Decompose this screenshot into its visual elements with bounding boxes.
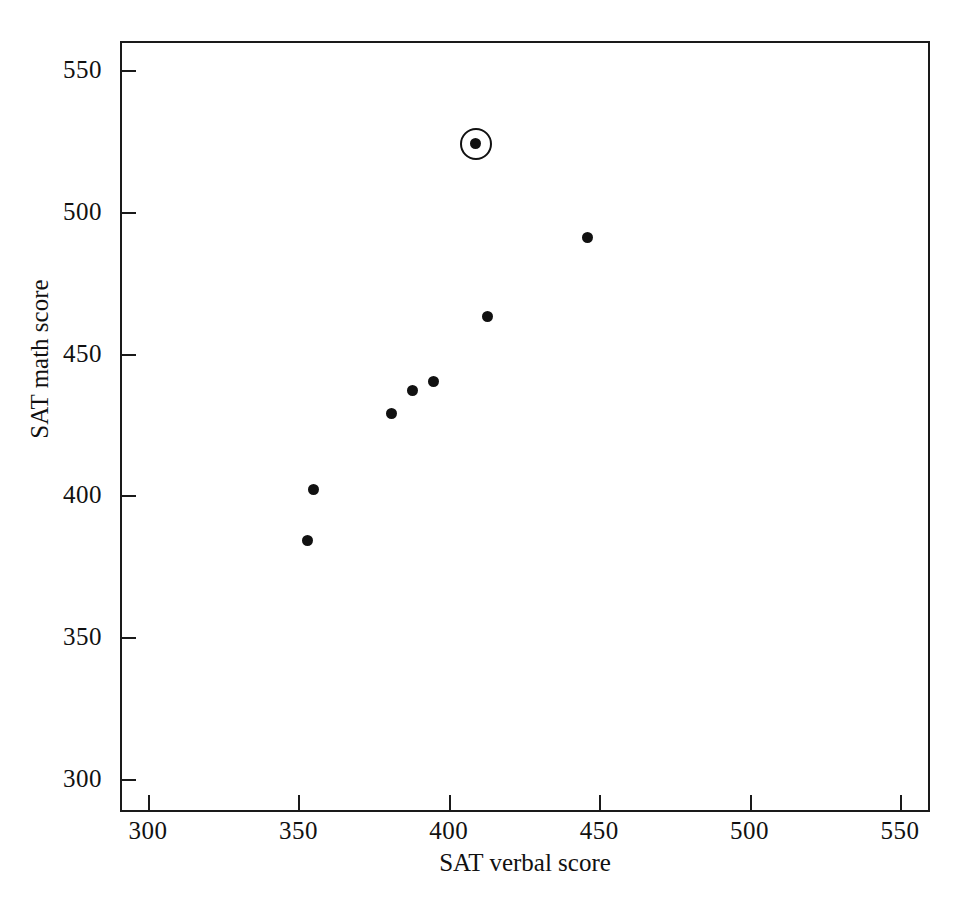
x-tick-label: 500 — [705, 818, 795, 843]
data-point — [582, 232, 593, 243]
x-tick-mark — [750, 795, 752, 812]
x-tick-mark — [148, 795, 150, 812]
y-tick-label: 550 — [30, 57, 102, 82]
y-tick-mark — [120, 495, 136, 497]
scatter-plot-figure: 300350400450500550 300350400450500550 SA… — [0, 0, 972, 908]
x-tick-label: 350 — [253, 818, 343, 843]
y-tick-label: 350 — [30, 624, 102, 649]
x-tick-mark — [900, 795, 902, 812]
x-tick-label: 400 — [404, 818, 494, 843]
y-tick-mark — [120, 637, 136, 639]
x-tick-label: 300 — [103, 818, 193, 843]
y-tick-mark — [120, 70, 136, 72]
plot-frame — [120, 41, 930, 812]
x-tick-label: 450 — [554, 818, 644, 843]
x-tick-mark — [599, 795, 601, 812]
x-tick-mark — [298, 795, 300, 812]
x-tick-label: 550 — [855, 818, 945, 843]
x-tick-mark — [449, 795, 451, 812]
y-tick-mark — [120, 779, 136, 781]
y-tick-label: 300 — [30, 766, 102, 791]
y-tick-mark — [120, 354, 136, 356]
y-tick-mark — [120, 212, 136, 214]
y-axis-title: SAT math score — [26, 209, 54, 509]
data-point — [386, 408, 397, 419]
x-axis-title: SAT verbal score — [15, 849, 972, 877]
